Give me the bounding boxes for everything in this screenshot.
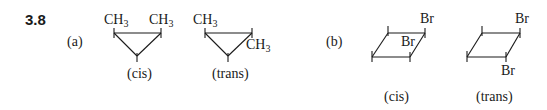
trans-cyclobutane-ring <box>467 26 520 62</box>
cis-cyclopropane-ring <box>114 28 161 62</box>
cis-cyclobutane-ring <box>372 26 425 62</box>
trans-cyclopropane-ring <box>205 28 252 62</box>
structure-drawings <box>0 0 547 110</box>
